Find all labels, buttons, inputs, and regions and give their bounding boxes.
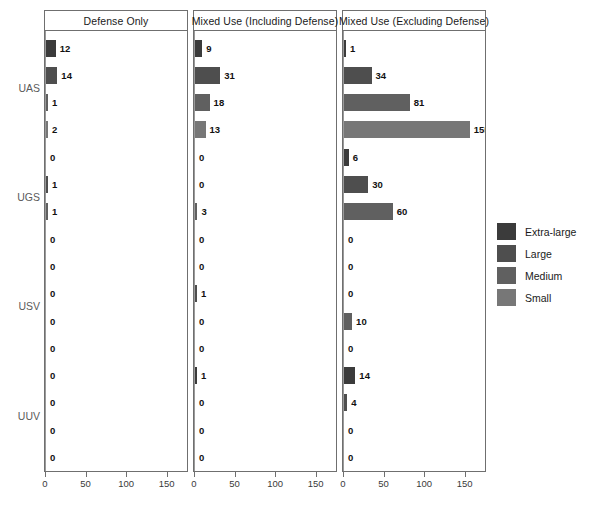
x-tick (235, 472, 236, 477)
bar-value-label: 0 (199, 313, 204, 330)
legend-swatch (497, 223, 516, 240)
bar-value-label: 0 (199, 394, 204, 411)
x-tick (126, 472, 127, 477)
facet-strip-label: Mixed Use (Including Defense) (192, 15, 338, 27)
bar-value-label: 0 (348, 449, 353, 466)
facet-strip-0: Defense Only (44, 10, 188, 31)
bar (195, 40, 202, 57)
bar (195, 367, 197, 384)
facet-strip-label: Mixed Use (Excluding Defense) (339, 15, 489, 27)
bar (344, 394, 347, 411)
bar-value-label: 14 (359, 367, 370, 384)
chart-root: Defense OnlyMixed Use (Including Defense… (0, 0, 594, 524)
bar-value-label: 81 (414, 94, 425, 111)
bar-value-label: 0 (50, 449, 55, 466)
bar (195, 285, 197, 302)
y-group-label-usv: USV (0, 300, 40, 312)
bar-value-label: 0 (50, 340, 55, 357)
legend-item: Medium (497, 265, 576, 286)
bar (344, 121, 470, 138)
bar (195, 67, 220, 84)
bar-value-label: 1 (201, 367, 206, 384)
x-tick (316, 472, 317, 477)
bar-value-label: 0 (50, 313, 55, 330)
bar-value-label: 155 (474, 121, 486, 138)
legend-swatch (497, 245, 516, 262)
bar-value-label: 0 (348, 258, 353, 275)
bar-value-label: 18 (214, 94, 225, 111)
x-axis-1: 050100150 (193, 472, 337, 502)
bar-value-label: 0 (348, 340, 353, 357)
bar (46, 176, 48, 193)
bar (344, 367, 355, 384)
plot-panel-0: 121412011000000000 (44, 31, 188, 472)
bar-value-label: 13 (210, 121, 221, 138)
bar (195, 121, 206, 138)
legend-item: Large (497, 243, 576, 264)
x-tick (424, 472, 425, 477)
facet-strip-1: Mixed Use (Including Defense) (193, 10, 337, 31)
x-tick (45, 472, 46, 477)
bar-value-label: 1 (52, 203, 57, 220)
bar (195, 94, 210, 111)
x-tick-label: 100 (118, 478, 134, 489)
x-tick-label: 0 (340, 478, 345, 489)
bar-value-label: 10 (356, 313, 367, 330)
bar-value-label: 1 (350, 40, 355, 57)
bar-value-label: 60 (397, 203, 408, 220)
x-tick-label: 150 (457, 478, 473, 489)
x-tick (86, 472, 87, 477)
bar-value-label: 0 (50, 367, 55, 384)
facet-strip-2: Mixed Use (Excluding Defense) (342, 10, 486, 31)
y-group-label-ugs: UGS (0, 191, 40, 203)
bar-value-label: 0 (50, 394, 55, 411)
bar-value-label: 0 (199, 231, 204, 248)
plot-panel-2: 134811556306000010014400 (342, 31, 486, 472)
bar-value-label: 0 (348, 231, 353, 248)
x-tick (343, 472, 344, 477)
bar-value-label: 1 (52, 176, 57, 193)
x-tick (275, 472, 276, 477)
bar-value-label: 31 (224, 67, 235, 84)
bar-value-label: 0 (199, 340, 204, 357)
plot-panel-1: 9311813003001001000 (193, 31, 337, 472)
bar (344, 176, 368, 193)
x-tick-label: 0 (191, 478, 196, 489)
legend-label: Large (525, 248, 552, 260)
x-tick-label: 100 (416, 478, 432, 489)
bar-value-label: 0 (199, 258, 204, 275)
bar (46, 94, 48, 111)
bar-value-label: 1 (201, 285, 206, 302)
legend-swatch (497, 267, 516, 284)
bar-value-label: 30 (372, 176, 383, 193)
legend-swatch (497, 289, 516, 306)
bar (344, 67, 372, 84)
x-tick-label: 0 (42, 478, 47, 489)
bar (195, 203, 197, 220)
legend-label: Extra-large (525, 226, 576, 238)
legend-label: Small (525, 292, 551, 304)
legend: Extra-largeLargeMediumSmall (497, 221, 576, 309)
bar (344, 149, 349, 166)
bar-value-label: 6 (353, 149, 358, 166)
bar-value-label: 0 (199, 422, 204, 439)
bar-value-label: 0 (348, 285, 353, 302)
x-tick-label: 100 (267, 478, 283, 489)
bar (344, 94, 410, 111)
x-tick-label: 150 (159, 478, 175, 489)
bar-value-label: 0 (50, 285, 55, 302)
legend-item: Extra-large (497, 221, 576, 242)
x-tick-label: 150 (308, 478, 324, 489)
legend-item: Small (497, 287, 576, 308)
bar (46, 67, 57, 84)
x-tick (194, 472, 195, 477)
x-tick (465, 472, 466, 477)
bar-value-label: 0 (199, 449, 204, 466)
bar-value-label: 12 (60, 40, 71, 57)
bar (344, 203, 393, 220)
x-tick-label: 50 (229, 478, 240, 489)
bar (46, 40, 56, 57)
bar-value-label: 0 (199, 149, 204, 166)
bar (46, 203, 48, 220)
facet-strip-label: Defense Only (84, 15, 149, 27)
